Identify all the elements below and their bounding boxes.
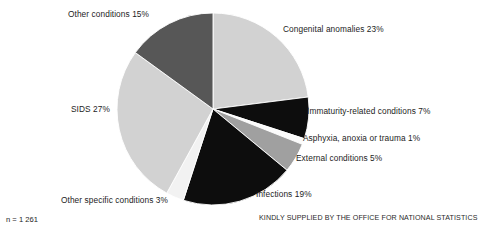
pie-label-external-conditions: External conditions 5% [296,154,382,163]
pie-label-other-conditions: Other conditions 15% [68,10,149,19]
pie-label-immaturity-related-conditions: Immaturity-related conditions 7% [307,107,430,116]
pie-label-sids: SIDS 27% [71,105,110,114]
pie-label-asphyxia-anoxia-or-trauma: Asphyxia, anoxia or trauma 1% [303,134,420,143]
pie-label-congenital-anomalies: Congenital anomalies 23% [283,25,384,34]
source-credit-line: KINDLY SUPPLIED BY THE OFFICE FOR NATION… [259,214,478,222]
pie-slice-group [117,13,309,205]
pie-chart-figure: Congenital anomalies 23% Immaturity-rela… [0,0,479,243]
pie-label-infections: Infections 19% [256,190,312,199]
sample-size-note: n = 1 261 [6,215,38,224]
pie-label-other-specific-conditions: Other specific conditions 3% [61,196,168,205]
pie-chart-svg [0,0,479,243]
